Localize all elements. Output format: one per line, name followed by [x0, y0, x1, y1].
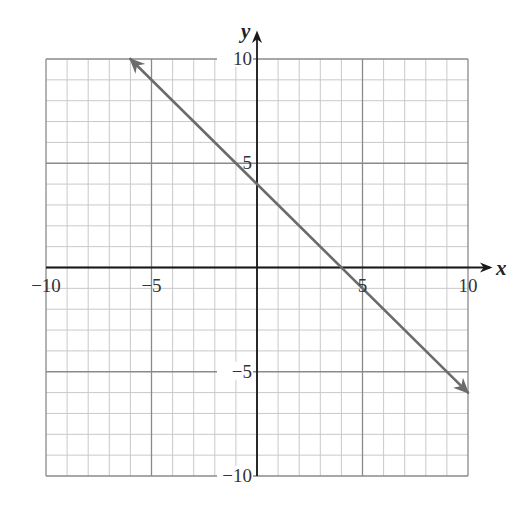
x-tick-label: −10 [31, 275, 61, 296]
y-tick-label: −5 [232, 361, 252, 382]
y-tick-label: 10 [233, 48, 252, 69]
axes [46, 33, 490, 476]
y-tick-label: −10 [222, 465, 252, 486]
coordinate-plane: xy−10−5510105−5−10 [0, 0, 532, 506]
y-tick-label: 5 [243, 152, 253, 173]
x-tick-label: 10 [459, 275, 478, 296]
tick-labels: xy−10−5510105−5−10 [31, 19, 506, 486]
x-tick-label: 5 [358, 275, 368, 296]
y-axis-label: y [238, 19, 251, 43]
graph-svg: xy−10−5510105−5−10 [0, 0, 532, 506]
x-tick-label: −5 [141, 275, 161, 296]
x-axis-label: x [495, 256, 507, 280]
